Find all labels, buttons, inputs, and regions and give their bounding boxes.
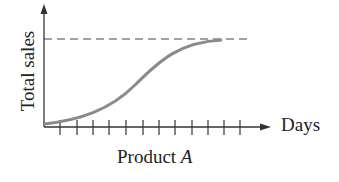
- x-axis-arrow-icon: [260, 124, 271, 131]
- caption-text: Product: [117, 146, 181, 167]
- caption-product-letter: A: [181, 146, 193, 167]
- x-axis-label: Days: [281, 114, 320, 136]
- y-axis-label: Total sales: [17, 21, 39, 121]
- sales-s-curve: [44, 40, 222, 124]
- y-axis-arrow-icon: [41, 4, 48, 14]
- diagram-caption: Product A: [117, 146, 192, 168]
